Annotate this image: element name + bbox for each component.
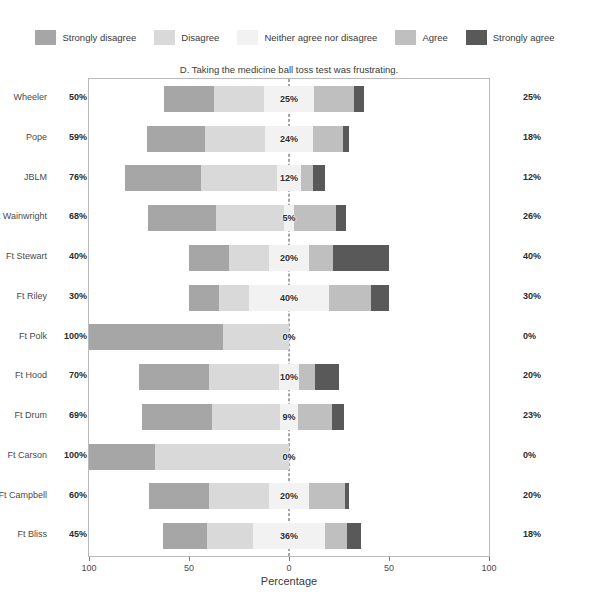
left-total-label: 59% (51, 118, 87, 158)
right-total-label: 30% (523, 277, 541, 317)
bar-track: 12% (89, 165, 489, 191)
y-axis-category-label: Ft Campbell (0, 476, 47, 516)
segment-strongly-disagree (189, 245, 229, 271)
right-total-label: 18% (523, 118, 541, 158)
bar-row[interactable]: 12% (89, 159, 489, 199)
bar-row[interactable]: 20% (89, 238, 489, 278)
center-percentage-label: 20% (269, 483, 309, 509)
center-percentage-label: 40% (269, 285, 309, 311)
center-percentage-label: 0% (269, 324, 309, 350)
segment-strongly-disagree (189, 285, 219, 311)
x-axis-tick-label: 50 (184, 563, 194, 573)
y-axis-category-label: Ft Hood (15, 356, 47, 396)
bar-track: 10% (89, 364, 489, 390)
left-total-label: 100% (51, 317, 87, 357)
legend-label: Agree (422, 32, 447, 43)
y-axis-category-label: Pope (26, 118, 47, 158)
x-axis-tick-label: 0 (286, 563, 291, 573)
center-percentage-label: 24% (269, 126, 309, 152)
right-total-label: 20% (523, 476, 541, 516)
y-axis-category-label: JBLM (24, 158, 47, 198)
plot-area: 25%24%12%5%20%40%0%10%9%0%20%36% (88, 78, 490, 557)
segment-disagree (219, 285, 249, 311)
bar-track: 20% (89, 483, 489, 509)
x-axis-title: Percentage (88, 575, 490, 587)
segment-strongly-agree (371, 285, 389, 311)
left-total-label: 45% (51, 515, 87, 555)
bar-row[interactable]: 25% (89, 79, 489, 119)
bar-row[interactable]: 10% (89, 357, 489, 397)
bar-row[interactable]: 36% (89, 516, 489, 556)
segment-agree (313, 126, 343, 152)
segment-strongly-agree (332, 404, 344, 430)
legend-swatch-icon (154, 30, 175, 45)
bar-row[interactable]: 40% (89, 278, 489, 318)
legend-item-3[interactable]: Agree (395, 30, 447, 45)
y-axis-category-label: Ft Bliss (17, 515, 47, 555)
left-total-label: 70% (51, 356, 87, 396)
y-axis-labels: Wheeler50%Pope59%JBLM76%Ft Wainwright68%… (0, 78, 88, 557)
segment-strongly-agree (315, 364, 339, 390)
legend-swatch-icon (395, 30, 416, 45)
x-axis-tick (289, 557, 290, 561)
y-axis-category-label: Ft Polk (19, 317, 47, 357)
bar-track: 20% (89, 245, 489, 271)
segment-disagree (229, 245, 269, 271)
left-total-label: 50% (51, 78, 87, 118)
x-axis-tick (489, 557, 490, 561)
legend-label: Strongly agree (493, 32, 555, 43)
x-axis-tick-label: 100 (481, 563, 496, 573)
x-axis-tick (389, 557, 390, 561)
bar-track: 5% (89, 205, 489, 231)
y-axis-category-label: Wheeler (13, 78, 47, 118)
right-total-label: 25% (523, 78, 541, 118)
segment-agree (309, 483, 345, 509)
center-percentage-label: 9% (269, 404, 309, 430)
segment-strongly-agree (333, 245, 389, 271)
segment-strongly-disagree (163, 523, 207, 549)
x-axis-tick (89, 557, 90, 561)
center-percentage-label: 25% (269, 86, 309, 112)
segment-disagree (201, 165, 277, 191)
bar-row[interactable]: 20% (89, 477, 489, 517)
right-total-label: 20% (523, 356, 541, 396)
center-percentage-label: 5% (269, 205, 309, 231)
y-axis-category-label: Ft Stewart (6, 237, 47, 277)
segment-strongly-disagree (149, 483, 209, 509)
bar-row[interactable]: 0% (89, 437, 489, 477)
segment-strongly-disagree (147, 126, 205, 152)
y-axis-category-label: Ft Drum (15, 396, 48, 436)
bar-row[interactable]: 24% (89, 119, 489, 159)
legend-item-1[interactable]: Disagree (154, 30, 219, 45)
segment-strongly-agree (313, 165, 325, 191)
bar-row[interactable]: 9% (89, 397, 489, 437)
legend-item-0[interactable]: Strongly disagree (35, 30, 136, 45)
segment-strongly-agree (354, 86, 364, 112)
segment-strongly-disagree (139, 364, 209, 390)
segment-strongly-disagree (89, 324, 223, 350)
left-total-label: 76% (51, 158, 87, 198)
segment-strongly-agree (336, 205, 346, 231)
segment-strongly-disagree (164, 86, 214, 112)
x-axis-tick-label: 50 (384, 563, 394, 573)
bar-track: 9% (89, 404, 489, 430)
right-total-label: 18% (523, 515, 541, 555)
segment-disagree (214, 86, 264, 112)
segment-strongly-disagree (142, 404, 212, 430)
y-axis-category-label: Ft Carson (7, 436, 47, 476)
segment-strongly-disagree (89, 444, 155, 470)
segment-agree (314, 86, 354, 112)
segment-agree (325, 523, 347, 549)
bar-track: 40% (89, 285, 489, 311)
segment-strongly-disagree (148, 205, 216, 231)
legend-swatch-icon (237, 30, 258, 45)
legend-item-4[interactable]: Strongly agree (466, 30, 555, 45)
legend-swatch-icon (466, 30, 487, 45)
center-percentage-label: 0% (269, 444, 309, 470)
segment-strongly-disagree (125, 165, 201, 191)
left-total-label: 68% (51, 197, 87, 237)
x-axis-tick (189, 557, 190, 561)
bar-row[interactable]: 0% (89, 318, 489, 358)
legend-item-2[interactable]: Neither agree nor disagree (237, 30, 377, 45)
bar-row[interactable]: 5% (89, 198, 489, 238)
